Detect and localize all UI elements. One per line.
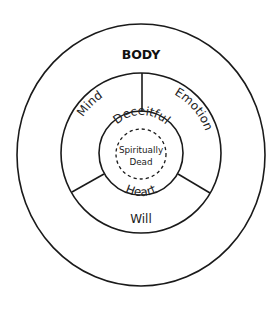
body-ring bbox=[17, 24, 265, 286]
heart-label-deceitful: Deceitful bbox=[110, 104, 173, 127]
core-label-line2: Dead bbox=[129, 157, 152, 167]
heart-label-heart: Heart bbox=[124, 182, 159, 199]
sector-label-will: Will bbox=[130, 212, 152, 226]
sector-label-emotion: Emotion bbox=[172, 85, 215, 133]
body-label: BODY bbox=[122, 47, 162, 62]
body-soul-spirit-diagram: BODY Mind Emotion Will Deceitful Heart S… bbox=[0, 0, 280, 309]
core-label-line1: Spiritually bbox=[119, 145, 163, 155]
divider-emotion-will bbox=[178, 174, 210, 193]
divider-mind-will bbox=[72, 174, 104, 192]
